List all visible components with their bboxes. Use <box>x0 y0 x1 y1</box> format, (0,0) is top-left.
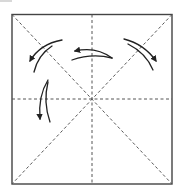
fold-diagram <box>0 0 181 191</box>
